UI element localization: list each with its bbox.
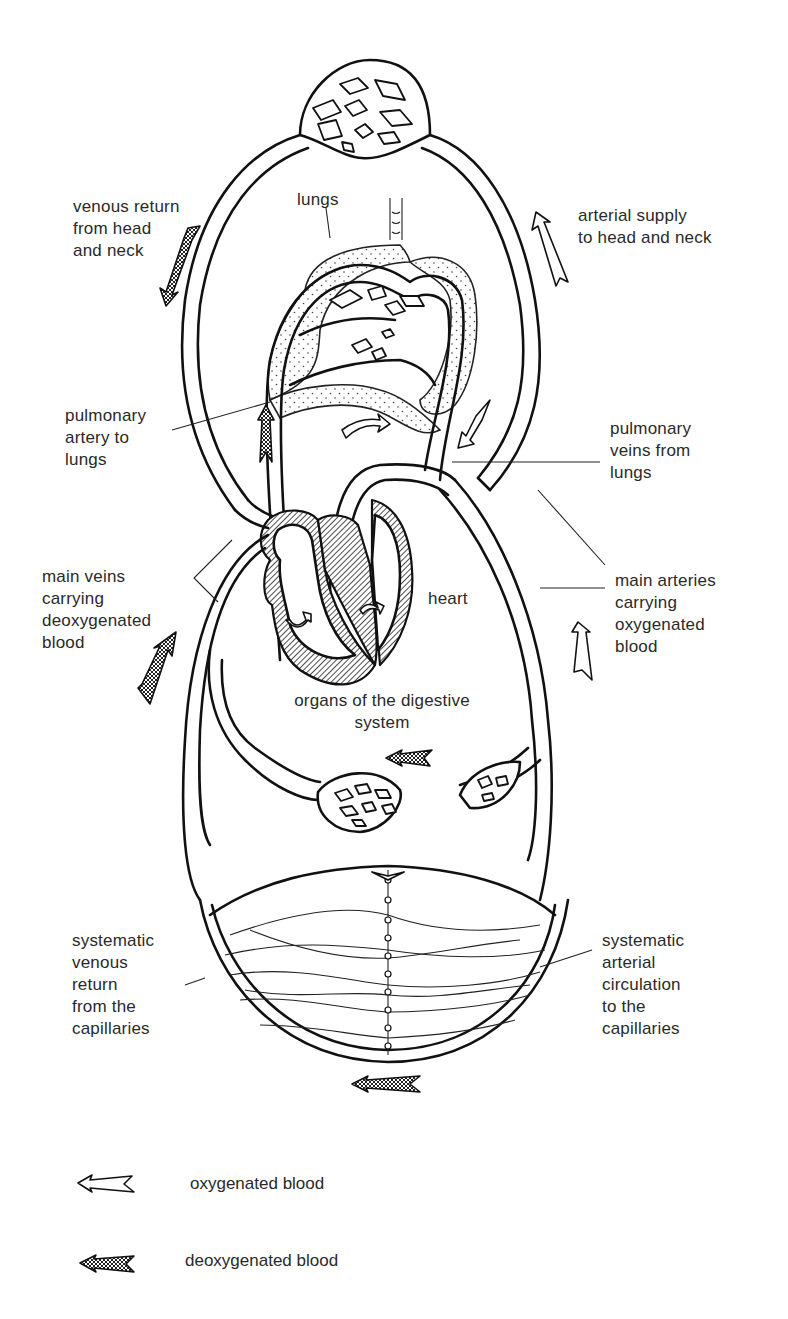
label-venous-return-head: venous return from head and neck — [73, 196, 180, 262]
oxygenated-arrow-icon — [572, 622, 592, 680]
heart — [261, 500, 413, 684]
lungs — [268, 198, 477, 433]
systemic-capillary-bed — [200, 866, 568, 1062]
label-heart: heart — [428, 588, 468, 610]
oxygenated-arrow-icon — [78, 1175, 134, 1192]
label-pulmonary-veins: pulmonary veins from lungs — [610, 418, 691, 484]
label-pulmonary-artery: pulmonary artery to lungs — [65, 405, 146, 471]
oxygenated-arrow-icon — [458, 400, 490, 448]
label-systematic-arterial-circulation: systematic arterial circulation to the c… — [602, 930, 684, 1040]
label-lungs: lungs — [297, 189, 339, 211]
label-systematic-venous-return: systematic venous return from the capill… — [72, 930, 154, 1040]
label-main-veins: main veins carrying deoxygenated blood — [42, 566, 151, 654]
legend-oxygenated-label: oxygenated blood — [190, 1173, 324, 1195]
legend-deoxygenated-label: deoxygenated blood — [185, 1250, 338, 1272]
deoxygenated-arrow-icon — [258, 405, 274, 462]
digestive-capillary-bed — [318, 762, 520, 832]
legend-icons — [78, 1175, 134, 1272]
label-main-arteries: main arteries carrying oxygenated blood — [615, 570, 716, 658]
main-vessels — [183, 478, 552, 900]
deoxygenated-arrow-icon — [352, 1076, 420, 1092]
label-arterial-supply-head: arterial supply to head and neck — [578, 205, 712, 249]
head-capillary-bed — [300, 60, 430, 158]
oxygenated-arrow-icon — [532, 212, 568, 286]
label-digestive-organs: organs of the digestive system — [262, 690, 502, 734]
oxygenated-arrow-icon — [342, 414, 390, 438]
deoxygenated-arrow-icon — [386, 750, 432, 766]
head-neck-vessels — [182, 135, 540, 510]
deoxygenated-arrow-icon — [80, 1255, 134, 1272]
